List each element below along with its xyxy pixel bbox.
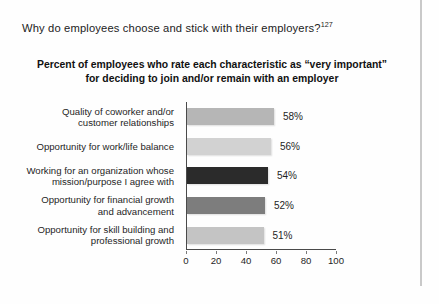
x-tick-label: 100 <box>328 255 344 266</box>
plot-area: Quality of coworker and/or customer rela… <box>0 102 418 286</box>
chart-row: Working for an organization whose missio… <box>0 161 418 191</box>
category-label-line: and advancement <box>0 206 174 217</box>
category-label-line: Opportunity for skill building and <box>0 224 174 235</box>
bar-value-label: 56% <box>280 141 300 152</box>
category-label-line: Opportunity for financial growth <box>0 194 174 205</box>
bar-3 <box>187 197 265 214</box>
bar-chart: Percent of employees who rate each chara… <box>0 58 418 286</box>
x-tick-mark <box>276 251 277 254</box>
category-label: Quality of coworker and/or customer rela… <box>0 106 180 128</box>
chart-row: Quality of coworker and/or customer rela… <box>0 102 418 132</box>
header-question: Why do employees choose and stick with t… <box>22 20 333 34</box>
category-label: Opportunity for financial growth and adv… <box>0 194 180 216</box>
bar-track: 52% <box>187 191 337 221</box>
x-axis-ticks: 020406080100 <box>186 251 336 273</box>
chart-row: Opportunity for work/life balance 56% <box>0 132 418 162</box>
x-tick-label: 40 <box>241 255 252 266</box>
category-label-line: Working for an organization whose <box>0 165 174 176</box>
header-question-text: Why do employees choose and stick with t… <box>22 22 321 34</box>
x-tick-mark <box>336 251 337 254</box>
bar-track: 51% <box>187 220 337 250</box>
page-edge-rule <box>420 0 422 286</box>
x-tick-mark <box>216 251 217 254</box>
x-tick-mark <box>246 251 247 254</box>
x-tick-label: 80 <box>301 255 312 266</box>
x-tick-mark <box>186 251 187 254</box>
x-tick-label: 60 <box>271 255 282 266</box>
bar-track: 58% <box>187 102 337 132</box>
bar-0 <box>187 108 274 125</box>
category-label-line: customer relationships <box>0 117 174 128</box>
bar-value-label: 58% <box>283 111 303 122</box>
category-label: Opportunity for skill building and profe… <box>0 224 180 246</box>
bar-track: 54% <box>187 161 337 191</box>
x-tick-label: 20 <box>211 255 222 266</box>
chart-title: Percent of employees who rate each chara… <box>0 58 418 86</box>
bar-value-label: 51% <box>273 230 293 241</box>
x-tick-mark <box>306 251 307 254</box>
bar-4 <box>187 227 264 244</box>
category-label: Opportunity for work/life balance <box>0 141 180 152</box>
bar-value-label: 54% <box>277 170 297 181</box>
chart-row: Opportunity for financial growth and adv… <box>0 191 418 221</box>
bar-2 <box>187 167 268 184</box>
bar-value-label: 52% <box>274 200 294 211</box>
category-label-line: Quality of coworker and/or <box>0 106 174 117</box>
chart-title-line-1: Percent of employees who rate each chara… <box>22 58 402 72</box>
header-footnote-marker: 127 <box>321 20 333 29</box>
chart-title-line-2: for deciding to join and/or remain with … <box>22 72 402 86</box>
category-label: Working for an organization whose missio… <box>0 165 180 187</box>
x-tick-label: 0 <box>183 255 188 266</box>
category-label-line: professional growth <box>0 235 174 246</box>
category-label-line: Opportunity for work/life balance <box>0 141 174 152</box>
category-label-line: mission/purpose I agree with <box>0 176 174 187</box>
bar-track: 56% <box>187 132 337 162</box>
bar-1 <box>187 138 271 155</box>
chart-row: Opportunity for skill building and profe… <box>0 220 418 250</box>
